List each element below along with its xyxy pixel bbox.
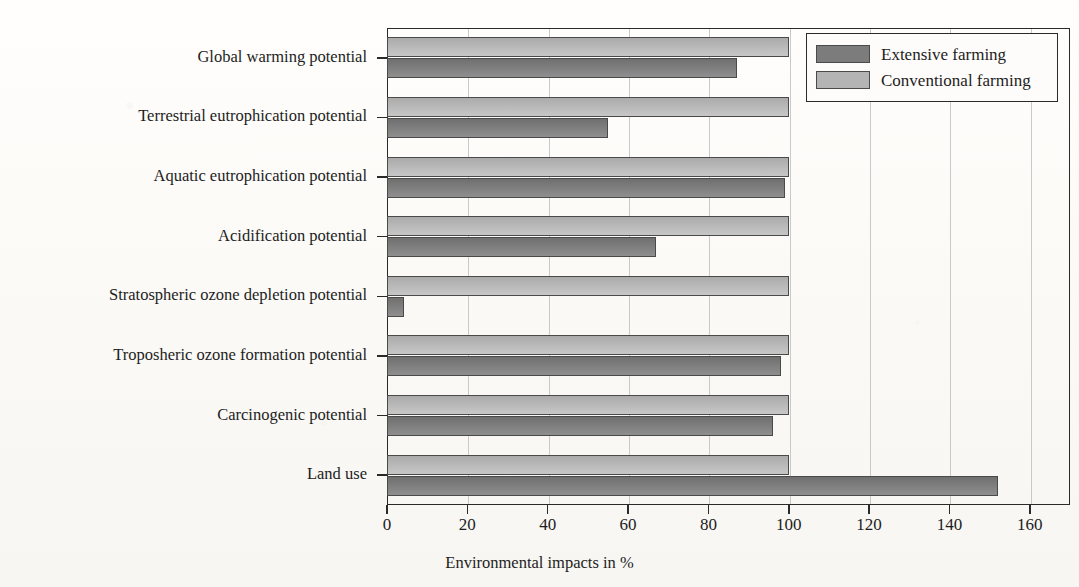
y-axis-label-6: Carcinogenic potential bbox=[217, 407, 367, 424]
legend-item-extensive-farming: Extensive farming bbox=[816, 41, 1048, 67]
y-axis-label-7: Land use bbox=[307, 466, 367, 483]
x-axis-tick-40 bbox=[547, 505, 549, 514]
y-axis-label-1: Terrestrial eutrophication potential bbox=[138, 108, 367, 125]
legend-swatch-extensive-farming bbox=[816, 45, 870, 63]
x-axis-ticklabel-0: 0 bbox=[383, 516, 392, 533]
legend-label-extensive-farming: Extensive farming bbox=[881, 46, 1006, 63]
bar-extensive-farming bbox=[387, 356, 781, 376]
chart-legend: Extensive farming Conventional farming bbox=[806, 33, 1058, 102]
legend-label-conventional-farming: Conventional farming bbox=[881, 72, 1031, 89]
x-axis-ticklabel-100: 100 bbox=[776, 516, 802, 533]
x-axis-ticklabel-40: 40 bbox=[539, 516, 556, 533]
x-axis-ticklabel-120: 120 bbox=[856, 516, 882, 533]
x-axis-ticklabel-140: 140 bbox=[937, 516, 963, 533]
x-axis-tick-100 bbox=[788, 505, 790, 514]
y-axis-label-5: Troposheric ozone formation potential bbox=[113, 347, 367, 364]
bar-conventional-farming bbox=[387, 97, 789, 117]
bar-conventional-farming bbox=[387, 455, 789, 475]
bar-conventional-farming bbox=[387, 216, 789, 236]
bar-conventional-farming bbox=[387, 395, 789, 415]
bar-extensive-farming bbox=[387, 476, 998, 496]
bar-conventional-farming bbox=[387, 157, 789, 177]
bar-extensive-farming bbox=[387, 297, 404, 317]
x-axis-ticklabel-160: 160 bbox=[1017, 516, 1043, 533]
x-axis-tick-140 bbox=[949, 505, 951, 514]
x-axis-tick-120 bbox=[868, 505, 870, 514]
x-axis-tick-0 bbox=[386, 505, 388, 514]
bar-conventional-farming bbox=[387, 276, 789, 296]
bar-extensive-farming bbox=[387, 118, 608, 138]
legend-swatch-conventional-farming bbox=[816, 71, 870, 89]
y-axis-label-0: Global warming potential bbox=[197, 49, 367, 66]
bar-conventional-farming bbox=[387, 335, 789, 355]
x-axis-ticklabel-80: 80 bbox=[700, 516, 717, 533]
horizontal-bar-chart: Global warming potentialTerrestrial eutr… bbox=[0, 0, 1079, 587]
y-axis-label-4: Stratospheric ozone depletion potential bbox=[109, 287, 367, 304]
y-axis-labels: Global warming potentialTerrestrial eutr… bbox=[0, 0, 383, 587]
x-axis-ticklabel-60: 60 bbox=[620, 516, 637, 533]
bar-extensive-farming bbox=[387, 58, 737, 78]
bar-extensive-farming bbox=[387, 237, 656, 257]
x-axis-tick-60 bbox=[627, 505, 629, 514]
x-axis-tick-160 bbox=[1029, 505, 1031, 514]
x-axis-tick-80 bbox=[708, 505, 710, 514]
x-axis-title: Environmental impacts in % bbox=[0, 553, 1079, 573]
x-axis-tick-20 bbox=[467, 505, 469, 514]
y-axis-label-2: Aquatic eutrophication potential bbox=[153, 168, 367, 185]
x-axis-ticklabel-20: 20 bbox=[459, 516, 476, 533]
legend-item-conventional-farming: Conventional farming bbox=[816, 67, 1048, 93]
bar-conventional-farming bbox=[387, 37, 789, 57]
bar-extensive-farming bbox=[387, 416, 773, 436]
bar-extensive-farming bbox=[387, 178, 785, 198]
y-axis-label-3: Acidification potential bbox=[218, 228, 367, 245]
